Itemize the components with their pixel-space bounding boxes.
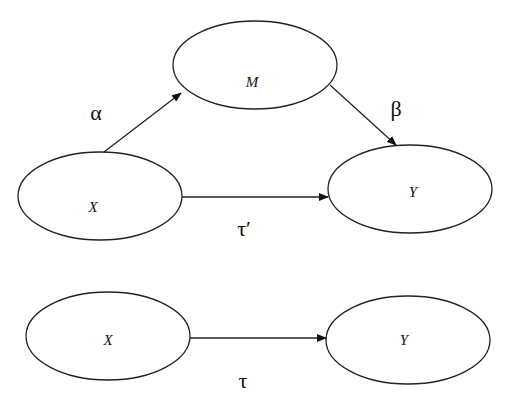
mediated-model: M X Y α β τ′ [18,21,492,241]
diagram-canvas: M X Y α β τ′ X Y [0,0,507,407]
node-x-total-label: X [102,332,113,348]
edge-label-alpha: α [90,100,102,125]
edge-label-tau-prime: τ′ [237,216,251,241]
node-m: M [173,21,337,109]
node-x: X [18,152,182,240]
edge-x-to-m [104,93,181,152]
edge-label-beta: β [390,96,401,121]
node-m-label: M [245,74,260,90]
node-x-label: X [87,199,98,215]
mediation-diagram: M X Y α β τ′ X Y [0,0,507,407]
node-y-total: Y [326,296,490,384]
node-x-total: X [26,292,190,380]
edge-label-tau: τ [239,368,248,393]
total-model: X Y τ [26,292,490,393]
edge-m-to-y [330,85,396,145]
node-y: Y [328,145,492,233]
